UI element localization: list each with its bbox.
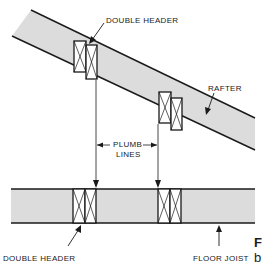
rafter-bottom-edge [12, 36, 255, 150]
double-header-bottom-label: DOUBLE HEADER [3, 254, 75, 263]
upper-double-header-right [86, 45, 97, 79]
plumb-lines-label-1: PLUMB [113, 140, 142, 149]
floor-joist-leader [216, 225, 222, 246]
joist-double-header-left [73, 189, 96, 223]
rafter [12, 10, 255, 150]
plumb-line-right [155, 124, 161, 188]
caption-fragment-line2: b [254, 250, 261, 264]
plumb-line-left [93, 80, 99, 188]
rafter-top-edge [31, 10, 255, 118]
upper-double-header-left [74, 41, 86, 72]
lower-double-header-right [171, 98, 182, 130]
joist-double-header-right [158, 189, 181, 223]
double-header-bottom-leader [68, 225, 81, 246]
plumb-lines-label-2: LINES [116, 150, 141, 159]
framing-diagram: DOUBLE HEADER RAFTER PLUMB LINES DOUBLE … [0, 0, 263, 264]
rafter-label: RAFTER [208, 84, 242, 93]
floor-joist [11, 189, 255, 223]
caption-fragment-line1: F [254, 235, 262, 250]
double-header-top-label: DOUBLE HEADER [106, 16, 178, 25]
floor-joist-label: FLOOR JOIST [193, 254, 249, 263]
lower-double-header-left [159, 92, 171, 123]
